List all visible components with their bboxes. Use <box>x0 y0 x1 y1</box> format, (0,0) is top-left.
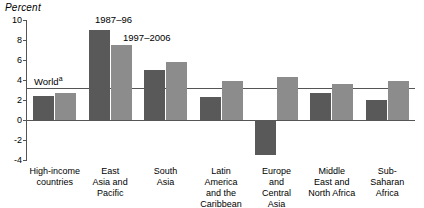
category-label: High-income countries <box>25 166 84 188</box>
y-tick-label: 2 <box>0 96 22 105</box>
y-tick-label: -4 <box>0 156 22 165</box>
plot-area: Worlda 1987–96 1997–2006 -4-20246810 Hig… <box>0 0 424 208</box>
world-reference-label: Worlda <box>34 77 65 87</box>
y-tick-mark <box>23 60 26 61</box>
y-tick-mark <box>23 20 26 21</box>
y-tick-label: 6 <box>0 56 22 65</box>
bar-early <box>144 70 165 120</box>
bar-early <box>310 93 331 120</box>
bar-early <box>255 120 276 155</box>
bar-late <box>55 93 76 120</box>
bar-early <box>200 97 221 120</box>
world-reference-line <box>26 88 415 89</box>
bar-late <box>388 81 409 120</box>
series-label-early: 1987–96 <box>94 15 133 25</box>
category-label: Middle East and North Africa <box>302 166 361 199</box>
y-tick-mark <box>23 140 26 141</box>
y-tick-mark <box>23 40 26 41</box>
bar-late <box>222 81 243 120</box>
category-label: Sub- Saharan Africa <box>358 166 417 199</box>
y-tick-label: 10 <box>0 16 22 25</box>
bar-late <box>111 45 132 120</box>
bar-late <box>277 77 298 120</box>
category-label: East Asia and Pacific <box>80 166 139 199</box>
bar-early <box>366 100 387 120</box>
bar-early <box>33 96 54 120</box>
series-label-late: 1997–2006 <box>122 33 172 43</box>
zero-baseline <box>26 120 415 121</box>
category-label: Europe and Central Asia <box>247 166 306 208</box>
world-footnote-marker: a <box>59 75 63 82</box>
y-tick-label: -2 <box>0 136 22 145</box>
y-tick-mark <box>23 160 26 161</box>
bar-early <box>89 30 110 120</box>
y-tick-mark <box>23 120 26 121</box>
y-axis-line <box>26 20 27 161</box>
y-tick-mark <box>23 80 26 81</box>
y-tick-label: 4 <box>0 76 22 85</box>
y-tick-label: 8 <box>0 36 22 45</box>
world-reference-text: World <box>34 76 59 87</box>
y-tick-label: 0 <box>0 116 22 125</box>
chart-container: Percent Worlda 1987–96 1997–2006 -4-2024… <box>0 0 424 208</box>
y-tick-mark <box>23 100 26 101</box>
bar-late <box>166 62 187 120</box>
category-label: South Asia <box>136 166 195 188</box>
category-label: Latin America and the Caribbean <box>191 166 250 208</box>
bar-late <box>332 84 353 120</box>
